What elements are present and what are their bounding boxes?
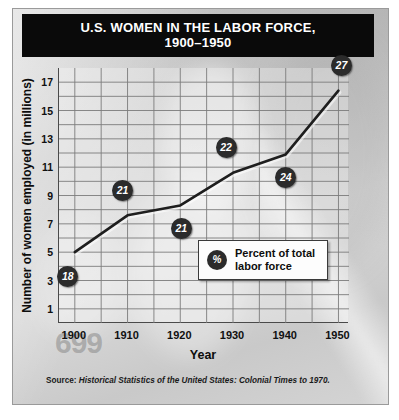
data-line-layer	[59, 68, 349, 323]
percent-badge: 24	[275, 167, 296, 188]
percent-icon: %	[207, 250, 227, 270]
percent-badge: 21	[112, 180, 133, 201]
y-tick-label: 1	[47, 303, 53, 315]
chart-title: U.S. WOMEN IN THE LABOR FORCE, 1900–1950	[22, 14, 374, 57]
source-text: Historical Statistics of the United Stat…	[76, 376, 329, 385]
chart-title-line1: U.S. WOMEN IN THE LABOR FORCE,	[22, 20, 374, 35]
percent-badge: 18	[57, 266, 78, 287]
x-tick-label: 1910	[114, 329, 138, 341]
y-tick-label: 13	[41, 133, 53, 145]
y-tick-label: 5	[47, 246, 53, 258]
y-tick-label: 17	[41, 76, 53, 88]
chart-figure: 699 U.S. WOMEN IN THE LABOR FORCE, 1900–…	[0, 0, 399, 420]
y-tick-label: 15	[41, 105, 53, 117]
y-axis-title: Number of women employed (in millions)	[20, 68, 36, 323]
y-tick-label: 7	[47, 218, 53, 230]
source-note: Source: Historical Statistics of the Uni…	[46, 376, 330, 385]
x-tick-label: 1920	[167, 329, 191, 341]
source-label: Source:	[46, 376, 76, 385]
x-tick-label: 1940	[272, 329, 296, 341]
x-axis-title: Year	[58, 348, 348, 362]
x-tick-label: 1900	[62, 329, 86, 341]
legend-label: Percent of total labor force	[235, 247, 315, 273]
y-tick-label: 11	[42, 161, 53, 173]
y-tick-label: 3	[47, 275, 53, 287]
percent-badge: 22	[216, 137, 237, 158]
plot-area: 1357911131517 190019101920193019401950 1…	[58, 68, 348, 323]
chart-legend: % Percent of total labor force	[198, 240, 328, 280]
x-tick-label: 1930	[220, 329, 244, 341]
chart-title-line2: 1900–1950	[22, 35, 374, 50]
percent-badge: 27	[331, 55, 352, 76]
x-tick-label: 1950	[325, 329, 349, 341]
y-tick-label: 9	[47, 190, 53, 202]
percent-badge: 21	[171, 218, 192, 239]
plot-frame	[58, 68, 348, 323]
